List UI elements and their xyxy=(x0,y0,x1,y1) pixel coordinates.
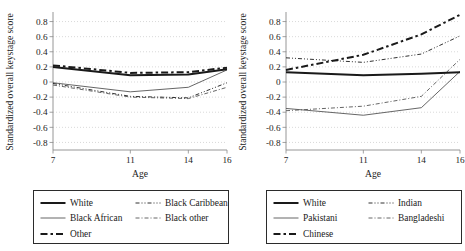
legend-item-chinese[interactable]: Chinese xyxy=(273,229,368,239)
legend-item-black-african[interactable]: Black African xyxy=(40,213,135,223)
legend-swatch-black-caribbean xyxy=(135,199,161,207)
legend-label-black-other: Black other xyxy=(165,213,208,223)
y-tick-label: -0.2 xyxy=(33,92,48,102)
y-tick-label: -0.4 xyxy=(266,107,281,117)
legend-label-white: White xyxy=(70,198,93,208)
y-tick-label: -0.8 xyxy=(33,138,48,148)
legend-item-black-other[interactable]: Black other xyxy=(135,213,230,223)
legend-item-white[interactable]: White xyxy=(40,198,135,208)
legend-swatch-black-african xyxy=(40,214,66,222)
legend-item-black-caribbean[interactable]: Black Caribbean xyxy=(135,198,230,208)
x-tick-label: 14 xyxy=(184,155,194,165)
chart-panel-left: 0.80.60.40.20-0.2-0.4-0.6-0.87111416AgeS… xyxy=(0,0,232,182)
y-tick-label: 0.2 xyxy=(36,62,48,72)
legend-swatch-other xyxy=(40,230,66,238)
y-axis-title: Standardized overall keystage score xyxy=(237,13,248,151)
y-tick-label: -0.4 xyxy=(33,107,48,117)
legend-left-grid: White Black Caribbean Black African Blac… xyxy=(40,195,225,242)
legend-swatch-black-other xyxy=(135,214,161,222)
y-tick-label: 0 xyxy=(276,77,281,87)
x-tick-label: 7 xyxy=(284,155,289,165)
legend-swatch-pakistani xyxy=(273,214,299,222)
legend-swatch-bangladeshi xyxy=(368,214,394,222)
x-tick-label: 16 xyxy=(455,155,465,165)
legend-item-other[interactable]: Other xyxy=(40,229,135,239)
legend-label-black-african: Black African xyxy=(70,213,122,223)
legend-left: White Black Caribbean Black African Blac… xyxy=(33,190,229,244)
series-line-black-caribbean xyxy=(53,83,227,98)
y-tick-label: 0.4 xyxy=(269,47,281,57)
legend-right-grid: White Indian Pakistani Bangladeshi Chine… xyxy=(273,195,458,242)
legend-label-other: Other xyxy=(70,229,91,239)
series-line-chinese xyxy=(286,15,460,70)
y-axis-title: Standardized overall keystage score xyxy=(4,13,15,151)
legend-item-bangladeshi[interactable]: Bangladeshi xyxy=(368,213,463,223)
legend-swatch-white xyxy=(40,199,66,207)
x-tick-label: 16 xyxy=(222,155,232,165)
legend-item-white-2[interactable]: White xyxy=(273,198,368,208)
series-line-pakistani xyxy=(286,71,460,115)
legend-swatch-white-2 xyxy=(273,199,299,207)
x-tick-label: 7 xyxy=(51,155,56,165)
series-line-indian xyxy=(286,36,460,62)
legend-label-bangladeshi: Bangladeshi xyxy=(398,213,444,223)
legend-swatch-indian xyxy=(368,199,394,207)
legend-label-white-2: White xyxy=(303,198,326,208)
y-tick-label: -0.6 xyxy=(266,123,281,133)
chart-panel-right: 0.80.60.40.20-0.2-0.4-0.6-0.87111416AgeS… xyxy=(233,0,465,182)
figure-root: 0.80.60.40.20-0.2-0.4-0.6-0.87111416AgeS… xyxy=(0,0,465,251)
x-tick-label: 11 xyxy=(359,155,368,165)
y-tick-label: 0.6 xyxy=(36,32,48,42)
series-line-white xyxy=(286,72,460,75)
y-tick-label: -0.8 xyxy=(266,138,281,148)
y-tick-label: 0 xyxy=(43,77,48,87)
plot-area-left: 0.80.60.40.20-0.2-0.4-0.6-0.87111416AgeS… xyxy=(0,0,232,182)
y-tick-label: 0.8 xyxy=(269,17,281,27)
x-tick-label: 11 xyxy=(126,155,135,165)
y-tick-label: 0.8 xyxy=(36,17,48,27)
y-tick-label: -0.2 xyxy=(266,92,281,102)
plot-area-right: 0.80.60.40.20-0.2-0.4-0.6-0.87111416AgeS… xyxy=(233,0,465,182)
y-tick-label: -0.6 xyxy=(33,123,48,133)
y-tick-label: 0.2 xyxy=(269,62,281,72)
legend-item-pakistani[interactable]: Pakistani xyxy=(273,213,368,223)
y-tick-label: 0.4 xyxy=(36,47,48,57)
legend-label-black-caribbean: Black Caribbean xyxy=(165,198,228,208)
legend-right: White Indian Pakistani Bangladeshi Chine… xyxy=(266,190,462,244)
series-line-black-other xyxy=(53,85,227,99)
x-axis-title: Age xyxy=(132,168,148,179)
x-axis-title: Age xyxy=(365,168,381,179)
y-tick-label: 0.6 xyxy=(269,32,281,42)
legend-label-pakistani: Pakistani xyxy=(303,213,337,223)
legend-swatch-chinese xyxy=(273,230,299,238)
legend-label-chinese: Chinese xyxy=(303,229,333,239)
legend-label-indian: Indian xyxy=(398,198,422,208)
x-tick-label: 14 xyxy=(417,155,427,165)
legend-item-indian[interactable]: Indian xyxy=(368,198,463,208)
